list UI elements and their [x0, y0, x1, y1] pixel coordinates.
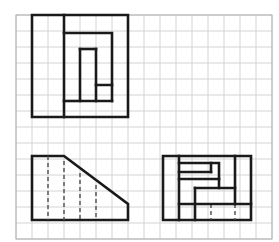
drawing-sheet — [0, 0, 279, 242]
orthographic-drawing — [0, 0, 279, 242]
sheet-background — [0, 0, 279, 242]
